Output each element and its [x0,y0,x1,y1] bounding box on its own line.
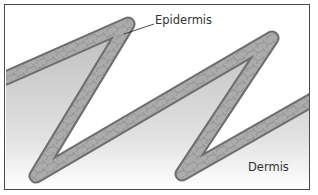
dermis-label: Dermis [248,160,289,174]
epidermis-label: Epidermis [155,13,212,27]
